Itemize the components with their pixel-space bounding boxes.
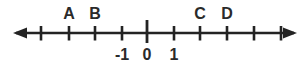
number-line-figure: A B C D -1 0 1 [0, 0, 308, 65]
point-label-c: C [194, 5, 206, 22]
point-label-b: B [89, 5, 101, 22]
point-label-d: D [221, 5, 233, 22]
value-label-one: 1 [170, 46, 179, 63]
point-label-a: A [63, 5, 75, 22]
left-arrow-head-icon [13, 28, 27, 39]
number-line-canvas: A B C D -1 0 1 [0, 0, 308, 65]
value-label-minus-one: -1 [115, 46, 129, 63]
value-label-zero: 0 [143, 46, 152, 63]
right-arrow-head-icon [283, 28, 297, 39]
